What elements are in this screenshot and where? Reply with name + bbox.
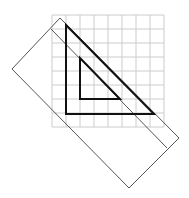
square-grid	[52, 15, 164, 127]
geometry-diagram	[0, 0, 189, 198]
inner-triangle-cutout	[80, 58, 120, 99]
